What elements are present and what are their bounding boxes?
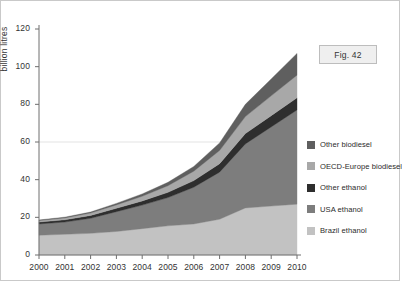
legend-swatch-icon — [307, 227, 315, 235]
legend-swatch-icon — [307, 184, 315, 192]
y-tick-label-60: 60 — [6, 136, 30, 146]
chart-legend: Other biodieselOECD-Europe biodieselOthe… — [307, 136, 401, 244]
y-tick-label-80: 80 — [6, 98, 30, 108]
legend-item-usa-ethanol[interactable]: USA ethanol — [307, 201, 401, 218]
legend-label: OECD-Europe biodiesel — [320, 162, 402, 171]
y-tick-label-0: 0 — [6, 249, 30, 259]
legend-swatch-icon — [307, 162, 315, 170]
legend-item-other-ethanol[interactable]: Other ethanol — [307, 179, 401, 196]
y-tick-label-20: 20 — [6, 211, 30, 221]
y-tick-label-40: 40 — [6, 174, 30, 184]
legend-label: USA ethanol — [320, 205, 363, 214]
legend-label: Other biodiesel — [320, 140, 372, 149]
legend-label: Brazil ethanol — [320, 226, 367, 235]
legend-swatch-icon — [307, 205, 315, 213]
legend-item-other-biodiesel[interactable]: Other biodiesel — [307, 136, 401, 153]
x-tick-label-2010: 2010 — [282, 262, 312, 272]
legend-item-oecd-europe-biodiesel[interactable]: OECD-Europe biodiesel — [307, 158, 401, 175]
y-tick-label-120: 120 — [6, 23, 30, 33]
legend-label: Other ethanol — [320, 183, 367, 192]
y-tick-label-100: 100 — [6, 61, 30, 71]
legend-swatch-icon — [307, 141, 315, 149]
legend-item-brazil-ethanol[interactable]: Brazil ethanol — [307, 222, 401, 239]
